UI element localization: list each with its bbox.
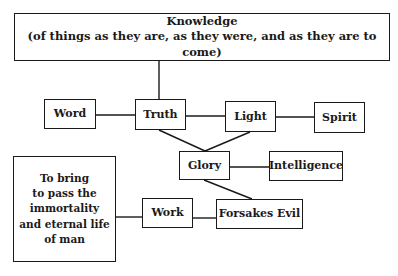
purpose-line: of man	[44, 232, 85, 247]
node-forsakes-evil: Forsakes Evil	[216, 199, 303, 229]
knowledge-title: Knowledge	[166, 14, 237, 30]
truth-label: Truth	[143, 108, 177, 121]
node-glory: Glory	[179, 151, 230, 180]
glory-label: Glory	[188, 159, 221, 172]
node-work: Work	[142, 198, 193, 228]
light-label: Light	[234, 110, 267, 123]
edge-light-glory	[205, 132, 250, 151]
node-spirit: Spirit	[314, 102, 365, 133]
forsakes-evil-label: Forsakes Evil	[219, 207, 300, 220]
concept-diagram: Knowledge (of things as they are, as the…	[0, 0, 398, 276]
spirit-label: Spirit	[322, 111, 357, 124]
purpose-line: and eternal life	[19, 217, 109, 232]
node-light: Light	[225, 101, 276, 132]
edge-truth-glory	[159, 130, 205, 151]
work-label: Work	[151, 206, 183, 219]
node-knowledge: Knowledge (of things as they are, as the…	[14, 13, 390, 61]
node-word: Word	[44, 99, 96, 129]
node-purpose: To bring to pass the immortality and ete…	[13, 156, 116, 262]
purpose-line: immortality	[30, 201, 99, 216]
node-truth: Truth	[135, 99, 186, 130]
knowledge-subtitle: (of things as they are, as they were, an…	[15, 29, 389, 60]
node-intelligence: Intelligence	[269, 151, 343, 181]
edge-glory-forsakes-evil	[204, 180, 252, 199]
intelligence-label: Intelligence	[269, 159, 343, 172]
word-label: Word	[54, 107, 86, 120]
purpose-line: to pass the	[32, 186, 96, 201]
purpose-line: To bring	[40, 171, 89, 186]
